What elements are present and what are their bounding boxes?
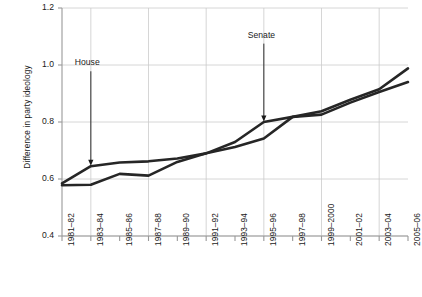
x-tick-label: 1991–92 bbox=[210, 213, 220, 246]
x-tick-label: 1987–88 bbox=[153, 213, 163, 246]
x-tick-label: 1999–2000 bbox=[326, 204, 336, 246]
y-tick-label: 0.4 bbox=[26, 230, 54, 240]
y-axis-ticks bbox=[58, 8, 62, 236]
annotation-arrows bbox=[88, 44, 266, 166]
x-tick-label: 1985–86 bbox=[124, 213, 134, 246]
series-line-senate bbox=[62, 68, 408, 185]
y-tick-label: 0.6 bbox=[26, 173, 54, 183]
horizontal-gridlines bbox=[62, 8, 408, 236]
y-tick-label: 0.8 bbox=[26, 116, 54, 126]
x-tick-label: 1995–96 bbox=[268, 213, 278, 246]
x-tick-label: 1997–98 bbox=[297, 213, 307, 246]
x-tick-label: 1989–90 bbox=[181, 213, 191, 246]
x-tick-label: 1981–82 bbox=[66, 213, 76, 246]
annotation-label-house: House bbox=[75, 57, 100, 67]
data-series-lines bbox=[62, 68, 408, 185]
x-tick-label: 1983–84 bbox=[95, 213, 105, 246]
annotation-label-senate: Senate bbox=[248, 30, 275, 40]
x-tick-label: 2005–06 bbox=[412, 213, 422, 246]
x-tick-label: 2001–02 bbox=[354, 213, 364, 246]
x-tick-label: 1993–94 bbox=[239, 213, 249, 246]
y-tick-label: 1.0 bbox=[26, 59, 54, 69]
x-tick-label: 2003–04 bbox=[383, 213, 393, 246]
y-tick-label: 1.2 bbox=[26, 2, 54, 12]
